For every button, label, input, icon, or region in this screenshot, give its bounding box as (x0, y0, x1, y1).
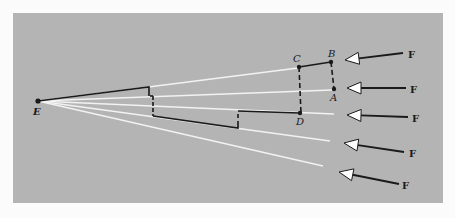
arrow-head-icon (345, 52, 360, 64)
point-E (35, 98, 40, 103)
arrow-head-icon (347, 82, 361, 94)
ray-diagram: E C B A D FFFFF (0, 0, 455, 218)
rays-group (38, 68, 334, 166)
label-E: E (32, 106, 41, 117)
point-A (332, 87, 336, 91)
ray-5 (38, 101, 323, 166)
label-A: A (329, 92, 337, 103)
incident-arrows: FFFFF (339, 49, 419, 191)
arrow-shaft (353, 175, 399, 184)
arrow-head-icon (339, 169, 354, 181)
arrow-shaft (361, 115, 408, 117)
label-C: C (293, 53, 301, 64)
arrow-label-F: F (412, 113, 419, 124)
arrow-head-icon (347, 109, 361, 121)
arrow-shaft (358, 145, 404, 152)
arrow-F-1: F (345, 49, 415, 64)
arrow-label-F: F (410, 84, 417, 95)
arrow-shaft (359, 53, 403, 58)
edge-CB (299, 62, 331, 67)
point-B (329, 60, 333, 64)
arrow-label-F: F (402, 180, 409, 191)
label-D: D (295, 116, 304, 127)
lower-path (153, 116, 238, 128)
arrow-head-icon (344, 139, 359, 151)
arrow-F-2: F (347, 82, 417, 95)
arrow-F-3: F (347, 109, 419, 124)
edge-CD (299, 67, 301, 113)
point-C (297, 65, 301, 69)
arrow-label-F: F (409, 148, 416, 159)
point-D (298, 111, 302, 115)
arrow-F-5: F (339, 169, 409, 191)
lower-path-2 (238, 111, 300, 113)
edge-BA (331, 62, 334, 89)
arrow-label-F: F (408, 49, 415, 60)
arrow-F-4: F (344, 139, 416, 159)
label-B: B (327, 48, 335, 59)
